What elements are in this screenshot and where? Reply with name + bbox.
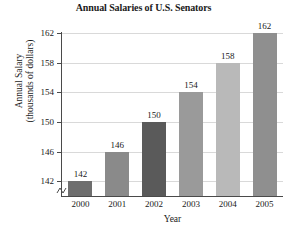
y-tick-mark — [57, 152, 62, 153]
gridline — [62, 33, 283, 34]
bar-value-label: 154 — [171, 81, 211, 90]
y-tick-mark — [57, 181, 62, 182]
y-tick-label: 142 — [14, 177, 54, 186]
bar[interactable] — [142, 122, 166, 196]
y-tick-label: 150 — [14, 118, 54, 127]
bar-value-label: 162 — [245, 22, 285, 31]
bar-value-label: 150 — [134, 111, 174, 120]
x-axis-title: Year — [62, 214, 283, 224]
bar-value-label: 142 — [60, 170, 100, 179]
y-tick-mark — [57, 92, 62, 93]
bar-chart-figure: Annual Salaries of U.S. Senators Annual … — [0, 0, 287, 238]
y-tick-label: 146 — [14, 148, 54, 157]
y-tick-label: 162 — [14, 29, 54, 38]
axis-break-icon — [56, 186, 67, 195]
bar[interactable] — [253, 33, 277, 196]
bar[interactable] — [105, 152, 129, 196]
chart-title: Annual Salaries of U.S. Senators — [0, 2, 287, 13]
y-tick-label: 158 — [14, 59, 54, 68]
gridline — [62, 122, 283, 123]
x-tick-label: 2005 — [243, 199, 287, 209]
y-tick-label: 154 — [14, 88, 54, 97]
gridline — [62, 63, 283, 64]
bar[interactable] — [216, 63, 240, 196]
bar[interactable] — [179, 92, 203, 196]
y-tick-mark — [57, 122, 62, 123]
x-axis-line — [61, 196, 283, 197]
bar[interactable] — [68, 181, 92, 196]
gridline — [62, 92, 283, 93]
bar-value-label: 158 — [208, 52, 248, 61]
gridline — [62, 152, 283, 153]
y-tick-mark — [57, 63, 62, 64]
y-tick-mark — [57, 33, 62, 34]
bar-value-label: 146 — [97, 141, 137, 150]
gridline — [62, 181, 283, 182]
